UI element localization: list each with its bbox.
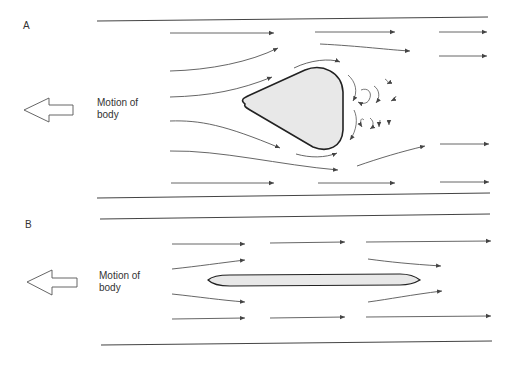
bottom-wall [101, 341, 492, 345]
wake-eddies [348, 75, 396, 140]
motion-arrow-icon [27, 270, 77, 295]
streamlined-plate [208, 274, 420, 286]
flow-diagram [0, 0, 508, 365]
bluff-body [243, 68, 343, 150]
top-wall [97, 17, 488, 21]
top-wall [100, 214, 490, 219]
motion-arrow-icon [24, 98, 73, 122]
bottom-wall [97, 193, 490, 198]
panel-a [24, 17, 490, 198]
panel-b [27, 214, 492, 345]
